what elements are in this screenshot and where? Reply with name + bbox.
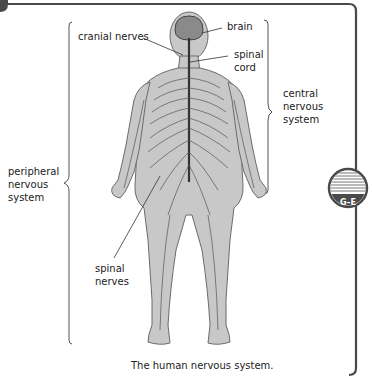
central-bracket <box>264 20 272 194</box>
central-nervous-system-label: central nervous system <box>283 87 323 126</box>
brain-shape <box>175 16 203 40</box>
spinal-nerves-label-line1: spinal <box>95 262 129 275</box>
spinal-cord-label-line2: cord <box>234 61 264 74</box>
spinal-cord-label: spinal cord <box>234 48 264 74</box>
grade-badge-label: G–E <box>333 198 363 207</box>
spinal-nerves-label: spinal nerves <box>95 262 129 288</box>
frame-corner-tab <box>0 0 8 12</box>
cranial-nerves-label: cranial nerves <box>78 30 149 43</box>
spinal-nerves-label-line2: nerves <box>95 275 129 288</box>
cns-label-line3: system <box>283 113 323 126</box>
peripheral-bracket <box>64 22 72 344</box>
pns-label-line2: nervous <box>8 178 59 191</box>
pns-label-line3: system <box>8 191 59 204</box>
peripheral-nervous-system-label: peripheral nervous system <box>8 165 59 204</box>
cns-label-line2: nervous <box>283 100 323 113</box>
spinal-cord-label-line1: spinal <box>234 48 264 61</box>
diagram-caption: The human nervous system. <box>131 360 274 371</box>
brain-label: brain <box>227 20 253 33</box>
pns-label-line1: peripheral <box>8 165 59 178</box>
cns-label-line1: central <box>283 87 323 100</box>
